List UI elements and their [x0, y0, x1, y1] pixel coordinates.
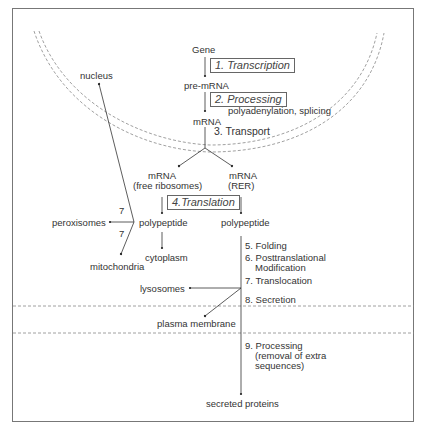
node-mrna-rer-sub: (RER) — [228, 180, 254, 191]
step-translocation: 7. Translocation — [245, 275, 312, 286]
node-secreted-proteins: secreted proteins — [206, 398, 279, 409]
step-folding: 5. Folding — [245, 240, 287, 251]
node-polypeptide-free: polypeptide — [139, 217, 188, 228]
node-mrna-free-sub: (free ribosomes) — [133, 180, 202, 191]
step-processing-note: polyadenylation, splicing — [228, 105, 331, 116]
node-plasma-membrane: plasma membrane — [157, 318, 236, 329]
step-translation-box: 4.Translation — [167, 195, 240, 210]
node-gene: Gene — [192, 44, 215, 55]
step-transcription-box: 1. Transcription — [210, 58, 295, 73]
step-transport: 3. Transport — [214, 126, 270, 137]
step-posttranslational-2: Modification — [255, 262, 306, 273]
node-cytoplasm: cytoplasm — [145, 252, 188, 263]
step-secretion: 8. Secretion — [245, 294, 296, 305]
node-peroxisomes: peroxisomes — [52, 217, 106, 228]
node-pre-mrna: pre-mRNA — [184, 80, 229, 91]
node-lysosomes: lysosomes — [140, 283, 185, 294]
node-nucleus: nucleus — [80, 70, 113, 81]
label-7-upper: 7 — [119, 205, 124, 216]
node-polypeptide-rer: polypeptide — [221, 217, 270, 228]
label-7-lower: 7 — [119, 228, 124, 239]
step-processing-9-3: sequences) — [255, 360, 304, 371]
node-mitochondria: mitochondria — [90, 261, 144, 272]
